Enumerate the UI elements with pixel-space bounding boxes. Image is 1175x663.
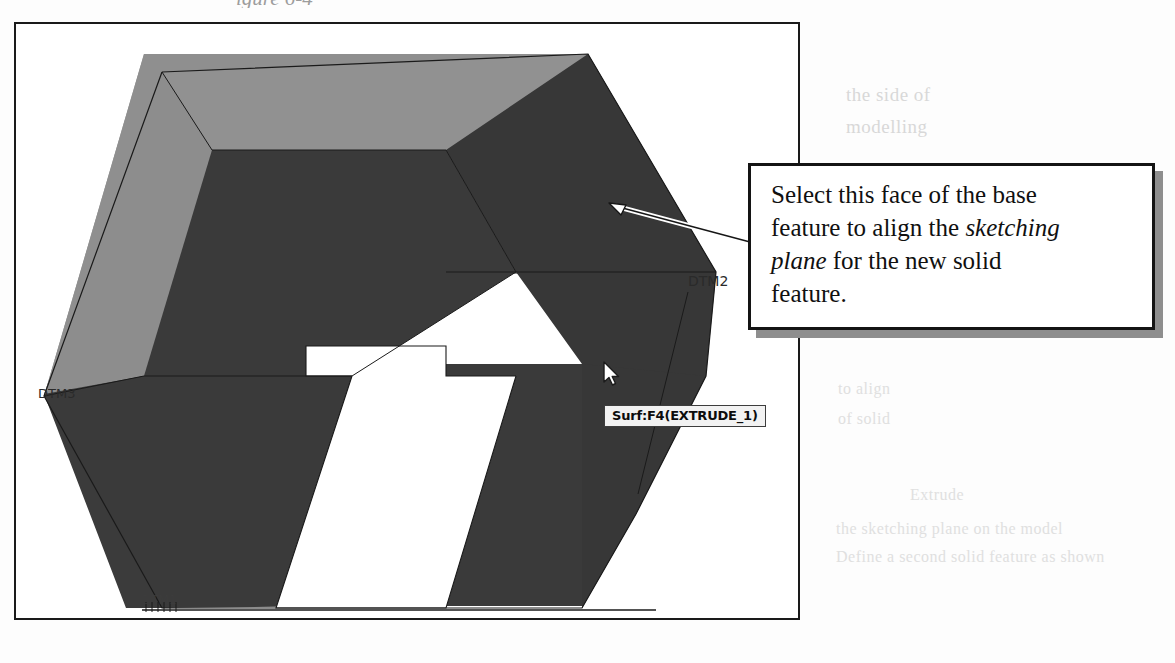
graphics-viewport[interactable]: DTM3 DTM2 DTM1 <box>16 24 798 618</box>
cad-application-window: DTM3 DTM2 DTM1 Surf:F4(EXTRUDE_1) <box>14 22 800 620</box>
bleed-text: modelling <box>846 116 928 138</box>
entity-preselect-tooltip: Surf:F4(EXTRUDE_1) <box>604 405 766 427</box>
datum-label-dtm2: DTM2 <box>688 273 728 289</box>
callout-line-1: Select this face of the base <box>771 178 1136 211</box>
callout-leader-line <box>595 190 770 260</box>
bleed-text: the sketching plane on the model <box>836 520 1063 538</box>
solid-model-3d-view[interactable]: DTM3 DTM2 DTM1 <box>16 24 798 618</box>
datum-label-dtm3: DTM3 <box>38 386 75 401</box>
annotation-callout-box: Select this face of the base feature to … <box>748 163 1155 330</box>
leader-arrowhead-icon <box>609 203 626 215</box>
bleed-text: the side of <box>846 84 931 106</box>
callout-line-2-plain: feature to align the <box>771 214 965 241</box>
leader-line-core <box>615 206 750 242</box>
bleed-text: to align <box>838 380 890 398</box>
model-face-right-side-lower[interactable] <box>582 364 706 608</box>
callout-line-4: feature. <box>771 277 1136 310</box>
bleed-text: Extrude <box>910 486 964 504</box>
mouse-pointer-arrow-icon <box>602 361 622 389</box>
datum-label-dtm1: DTM1 <box>142 593 177 607</box>
bleed-text: of solid <box>838 410 890 428</box>
figure-caption-fragment: igure 6-4 <box>236 0 536 8</box>
callout-line-2-emphasis: sketching <box>965 214 1059 241</box>
annotation-callout-text: Select this face of the base feature to … <box>751 166 1152 310</box>
callout-line-3-plain: for the new solid <box>827 247 1002 274</box>
callout-line-3-emphasis: plane <box>771 247 827 274</box>
callout-line-2: feature to align the sketching <box>771 211 1136 244</box>
bleed-text: Define a second solid feature as shown <box>836 548 1105 566</box>
callout-line-3: plane for the new solid <box>771 244 1136 277</box>
